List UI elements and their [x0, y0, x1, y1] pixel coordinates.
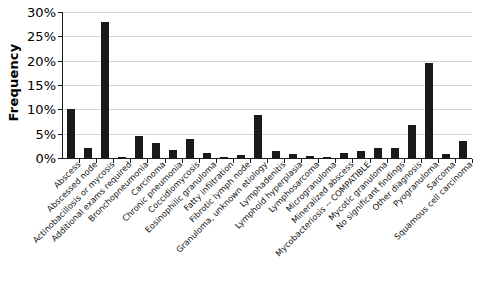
y-axis-tick-label: 10%	[27, 103, 56, 116]
y-axis-tick-label: 5%	[35, 127, 56, 140]
bar	[340, 153, 348, 158]
bar	[169, 150, 177, 158]
bar	[237, 155, 245, 158]
bar	[84, 148, 92, 158]
bar	[272, 151, 280, 158]
bars-layer	[62, 12, 472, 158]
bar	[220, 157, 228, 158]
bar	[135, 136, 143, 158]
y-axis-tick-label: 30%	[27, 6, 56, 19]
bar	[459, 141, 467, 158]
bar	[101, 22, 109, 158]
y-axis-title-label: Frequency	[7, 44, 22, 122]
bar	[152, 143, 160, 158]
x-axis-category-labels: AbscessAbscessed nodeActinobacillosis or…	[62, 160, 478, 281]
bar	[306, 156, 314, 158]
bar	[391, 148, 399, 158]
y-axis-tick-mark	[58, 158, 62, 159]
bar	[289, 154, 297, 158]
frequency-bar-chart: Frequency 30%25%20%15%10%5%0% AbscessAbs…	[0, 0, 478, 281]
bar	[254, 115, 262, 158]
y-axis-tick-labels: 30%25%20%15%10%5%0%	[22, 12, 58, 158]
bar	[374, 148, 382, 158]
y-axis-tick-label: 15%	[27, 79, 56, 92]
bar	[442, 154, 450, 158]
bar	[408, 125, 416, 158]
plot-area	[62, 12, 472, 158]
y-axis-tick-label: 25%	[27, 30, 56, 43]
bar	[425, 63, 433, 158]
bar	[323, 157, 331, 158]
bar	[203, 153, 211, 158]
bar	[357, 151, 365, 158]
y-axis-tick-label: 0%	[35, 152, 56, 165]
y-axis-tick-label: 20%	[27, 54, 56, 67]
bar	[67, 109, 75, 158]
bar	[118, 157, 126, 158]
bar	[186, 139, 194, 158]
